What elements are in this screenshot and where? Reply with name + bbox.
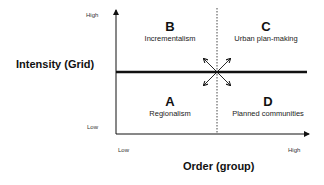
x-axis-title: Order (group) xyxy=(183,160,255,172)
x-axis-high-label: High xyxy=(288,147,300,153)
quadrant-label: Planned communities xyxy=(223,109,313,119)
quadrant-label: Incrementalism xyxy=(125,34,215,44)
quadrant-a: A Regionalism xyxy=(125,95,215,119)
y-axis-low-label: Low xyxy=(87,124,98,130)
quadrant-label: Urban plan-making xyxy=(221,34,311,44)
quadrant-b: B Incrementalism xyxy=(125,20,215,44)
quadrant-c: C Urban plan-making xyxy=(221,20,311,44)
quadrant-letter: A xyxy=(125,95,215,109)
quadrant-letter: B xyxy=(125,20,215,34)
quadrant-label: Regionalism xyxy=(125,109,215,119)
quadrant-letter: C xyxy=(221,20,311,34)
x-axis-low-label: Low xyxy=(118,147,129,153)
quadrant-letter: D xyxy=(223,95,313,109)
quadrant-d: D Planned communities xyxy=(223,95,313,119)
y-axis-title: Intensity (Grid) xyxy=(16,58,94,70)
y-axis-high-label: High xyxy=(86,12,98,18)
